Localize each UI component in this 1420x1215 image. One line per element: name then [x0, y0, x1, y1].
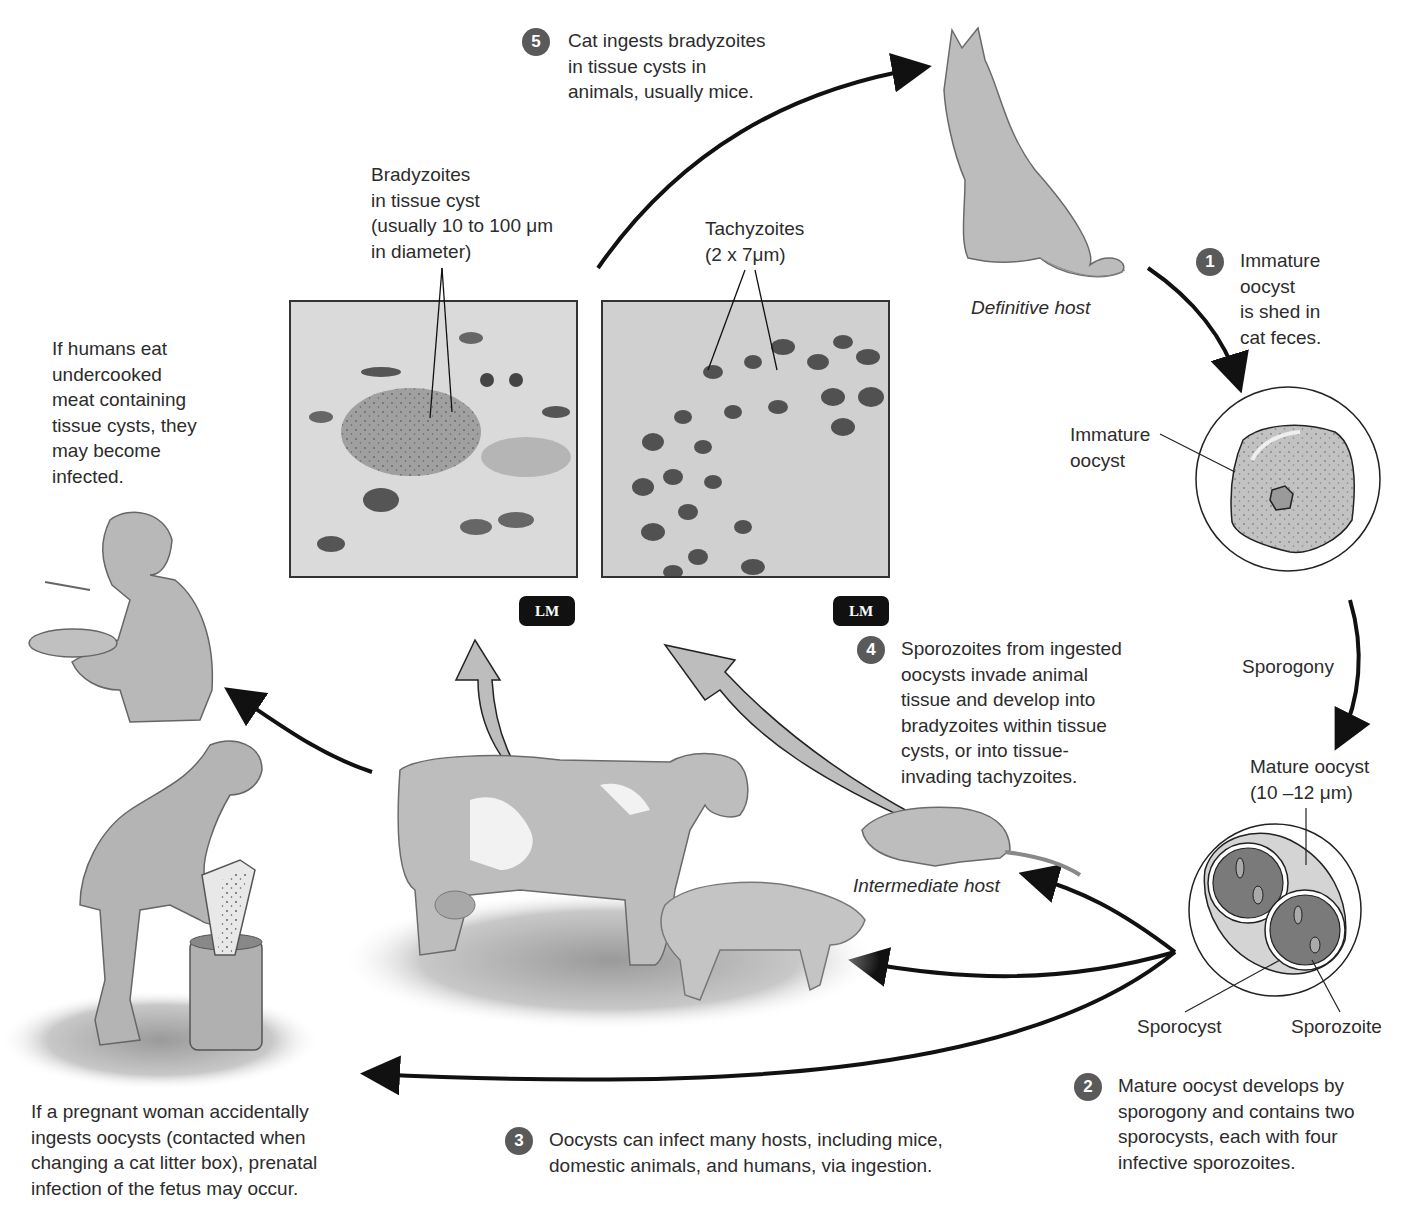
tachyzoite-micrograph	[601, 300, 890, 578]
definitive-host-label: Definitive host	[971, 295, 1090, 321]
arrow-step1	[1148, 268, 1238, 382]
pregnant-woman-note: If a pregnant woman accidentally ingests…	[31, 1099, 317, 1201]
step-number-badge: 5	[522, 28, 550, 56]
woman-shadow	[0, 990, 320, 1090]
lm-badge-left: LM	[519, 596, 575, 626]
humans-eat-note: If humans eat undercooked meat containin…	[52, 336, 197, 489]
mature-oocyst-label: Mature oocyst (10 –12 μm)	[1250, 754, 1369, 805]
step-1-text: Immature oocyst is shed in cat feces.	[1240, 248, 1321, 350]
lm-badge-right: LM	[833, 596, 889, 626]
sporocyst-label: Sporocyst	[1137, 1014, 1221, 1040]
tissue-arrow-mouse	[665, 645, 931, 839]
immature-oocyst-illustration	[1160, 387, 1380, 571]
step-number-badge: 3	[505, 1127, 533, 1155]
step-number-badge: 2	[1074, 1073, 1102, 1101]
sporozoite-label: Sporozoite	[1291, 1014, 1382, 1040]
arrow-sporogony	[1340, 600, 1359, 740]
step-number-badge: 1	[1196, 248, 1224, 276]
sporogony-label: Sporogony	[1242, 654, 1334, 680]
bradyzoites-label: Bradyzoites in tissue cyst (usually 10 t…	[371, 162, 553, 264]
man-eating-illustration	[29, 512, 212, 722]
immature-oocyst-label: Immature oocyst	[1070, 422, 1150, 473]
mouse-illustration	[862, 807, 1080, 875]
mature-oocyst-illustration	[1185, 808, 1361, 1012]
step-number-badge: 4	[857, 636, 885, 664]
step-2-text: Mature oocyst develops by sporogony and …	[1118, 1073, 1355, 1175]
step-4-text: Sporozoites from ingested oocysts invade…	[901, 636, 1122, 789]
step-3-text: Oocysts can infect many hosts, including…	[549, 1127, 943, 1178]
step-5-text: Cat ingests bradyzoites in tissue cysts …	[568, 28, 766, 105]
intermediate-host-label: Intermediate host	[853, 873, 1000, 899]
cat-illustration	[944, 28, 1125, 277]
tachyzoites-label: Tachyzoites (2 x 7μm)	[705, 216, 804, 267]
bradyzoite-micrograph	[289, 300, 578, 578]
